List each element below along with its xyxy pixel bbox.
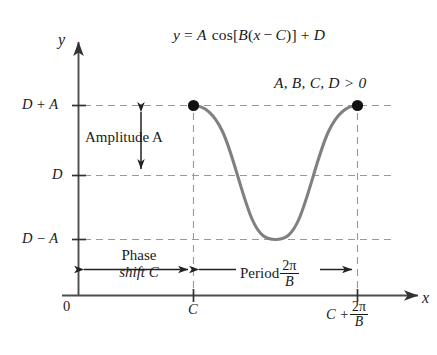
phase-shift-line-1: Phase — [103, 247, 175, 264]
max-point-right — [352, 100, 363, 111]
period-fraction-denominator: B — [350, 315, 368, 329]
equation-plus: + — [301, 26, 310, 43]
phase-shift-annotation: Phase shift C — [103, 247, 175, 281]
y-tick-label-d-minus-a: D − A — [22, 231, 58, 246]
equation-x-symbol: x — [253, 26, 260, 43]
equation-minus: − — [264, 26, 273, 43]
period-annotation-label: Period — [240, 265, 279, 281]
y-tick-label-d-plus-a: D + A — [22, 97, 58, 112]
x-axis-label: x — [422, 290, 429, 306]
period-annotation-fraction: 2πB — [280, 258, 298, 288]
cosine-curve — [194, 106, 358, 240]
period-annotation-numerator: 2π — [280, 258, 298, 274]
period-fraction: 2πB — [350, 300, 368, 329]
y-axis-label: y — [58, 32, 65, 48]
equation-b-symbol: B — [238, 26, 248, 43]
x-tick-label-c: C — [188, 302, 198, 317]
trig-graph-figure: y=Acos[B(x−C)]+D A, B, C, D > 0 y x 0 D … — [0, 0, 437, 355]
y-tick-label-d: D — [52, 167, 62, 182]
equation-lhs: y — [173, 26, 180, 43]
equation-eq-sign: = — [184, 26, 193, 43]
amplitude-annotation: Amplitude A — [85, 130, 163, 145]
horizontal-guide-lines — [72, 106, 391, 240]
equation-title: y=Acos[B(x−C)]+D — [173, 27, 325, 43]
equation-d-symbol: D — [314, 26, 325, 43]
period-annotation: Period2πB — [240, 258, 300, 288]
period-fraction-numerator: 2π — [350, 300, 368, 315]
origin-label: 0 — [63, 299, 70, 314]
equation-c-symbol: C — [275, 26, 286, 43]
equation-amplitude-symbol: A — [197, 26, 207, 43]
condition-note: A, B, C, D > 0 — [274, 75, 366, 91]
x-tick-c-prefix: C + — [326, 306, 349, 322]
equation-bracket-close: ] — [291, 26, 296, 43]
max-point-left — [188, 100, 199, 111]
equation-function: cos — [212, 26, 233, 43]
phase-shift-line-2: shift C — [103, 264, 175, 281]
period-annotation-denominator: B — [280, 274, 298, 289]
x-tick-label-c-plus-period: C +2πB — [326, 300, 369, 329]
